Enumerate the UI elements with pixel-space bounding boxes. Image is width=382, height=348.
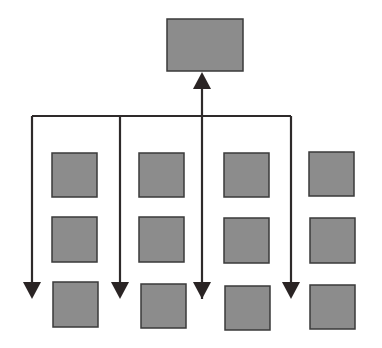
child-box-col2-row3 [141, 284, 186, 328]
child-box-col2-row2 [139, 217, 184, 262]
child-box-col4-row1 [309, 152, 354, 196]
child-box-col2-row1 [139, 153, 184, 197]
child-box-col3-row3 [225, 286, 270, 330]
top-parent-box [167, 19, 243, 71]
child-box-col1-row3 [53, 282, 98, 327]
down-arrowhead-icon [282, 282, 300, 299]
child-box-col3-row1 [224, 153, 269, 197]
child-box-col3-row2 [224, 218, 269, 263]
child-box-col4-row3 [310, 285, 355, 329]
down-arrowhead-icon [193, 282, 211, 299]
down-arrowhead-icon [111, 282, 129, 299]
child-box-col4-row2 [310, 218, 355, 263]
child-box-col1-row1 [52, 153, 97, 197]
up-arrowhead-icon [193, 72, 211, 89]
down-arrowhead-icon [23, 282, 41, 299]
hierarchy-diagram [0, 0, 382, 348]
child-box-col1-row2 [52, 217, 97, 262]
